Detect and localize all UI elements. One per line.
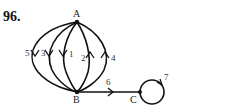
directed-multigraph: 96. A B C 5 3 1 2 4 6 7	[0, 0, 243, 105]
vertex-c-dot	[138, 90, 142, 94]
edge-1-label: 1	[69, 49, 74, 59]
edge-2-label: 2	[81, 53, 86, 63]
vertex-a-label: A	[73, 8, 81, 19]
arrow-edge-4	[101, 52, 109, 58]
arrow-edge-1	[59, 50, 67, 56]
arrow-edge-2	[86, 52, 94, 58]
vertex-a-dot	[75, 20, 79, 24]
vertex-c-label: C	[130, 94, 137, 105]
edge-3-label: 3	[41, 48, 46, 58]
edge-7-label: 7	[164, 72, 169, 82]
problem-number: 96.	[3, 9, 21, 24]
edge-5-label: 5	[25, 48, 30, 58]
edge-6-label: 6	[106, 77, 111, 87]
edge-4-label: 4	[111, 53, 116, 63]
vertex-b-label: B	[73, 94, 80, 105]
